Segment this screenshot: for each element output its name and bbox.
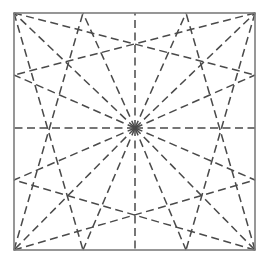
chord-top-right-corner-to-bottom-right-vertex: [186, 13, 255, 250]
ray-to-left-vertex-upper: [14, 75, 135, 128]
ray-to-right-vertex-lower: [135, 128, 255, 180]
figure-container: [0, 0, 268, 263]
chord-bottom-right-corner-to-top-right-vertex: [186, 13, 255, 250]
ray-to-right-vertex-upper: [135, 75, 255, 128]
ray-to-bottom-vertex-left: [83, 128, 135, 250]
ray-to-top-vertex-left: [83, 13, 135, 128]
ray-to-bottom-vertex-right: [135, 128, 186, 250]
radiating-star-diagram: [0, 0, 268, 263]
ray-to-left-vertex-lower: [14, 128, 135, 180]
ray-to-top-vertex-right: [135, 13, 186, 128]
